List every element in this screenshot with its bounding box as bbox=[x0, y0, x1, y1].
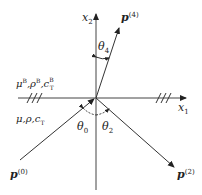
angle-arc-theta2 bbox=[96, 109, 109, 115]
angle-arc-theta0 bbox=[83, 108, 96, 115]
medium-label-upper: μB,ρB,cBT bbox=[16, 76, 54, 91]
vector-label-p4: p(4) bbox=[121, 11, 139, 24]
vector-p4 bbox=[96, 28, 119, 98]
vector-label-p2: p(2) bbox=[177, 168, 195, 181]
interface-hatch-right bbox=[156, 93, 171, 103]
x2-label: x2 bbox=[82, 11, 93, 26]
angle-label-theta0: θ0 bbox=[77, 120, 88, 135]
x1-label: x1 bbox=[178, 101, 189, 116]
medium-label-lower: μ,ρ,cT bbox=[16, 113, 44, 126]
angle-arc-theta4 bbox=[96, 57, 109, 59]
diagram-canvas: x2 x1 p(4) p(0) p(2) θ4 θ0 θ2 μB,ρB,cBT … bbox=[0, 0, 202, 195]
interface-hatch-left bbox=[27, 93, 42, 103]
angle-label-theta4: θ4 bbox=[98, 40, 110, 55]
vector-label-p0: p(0) bbox=[10, 168, 28, 181]
angle-label-theta2: θ2 bbox=[102, 120, 113, 135]
